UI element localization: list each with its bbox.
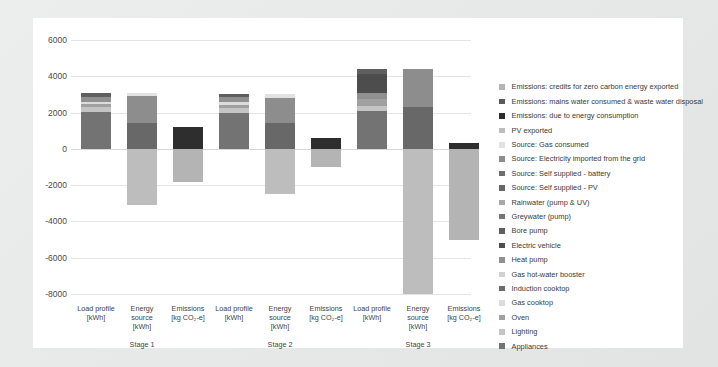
bar-segment (127, 123, 157, 149)
legend-item[interactable]: Bore pump (499, 224, 714, 238)
legend-swatch-icon (499, 343, 505, 349)
legend-item[interactable]: Source: Gas consumed (499, 138, 714, 152)
y-axis-tick-label: -6000 (7, 254, 67, 263)
bar-stage-3-col3[interactable] (449, 40, 479, 294)
legend-item[interactable]: Source: Self supplied - PV (499, 181, 714, 195)
legend-swatch-icon (499, 214, 505, 220)
legend-swatch-icon (499, 128, 505, 134)
bar-segment (81, 93, 111, 97)
legend-label: Source: Gas consumed (512, 141, 589, 148)
grid-line (71, 294, 471, 295)
legend-item[interactable]: Emissions: mains water consumed & waste … (499, 94, 714, 108)
plot-area: 6000400020000-2000-4000-6000-8000Load pr… (71, 40, 471, 294)
bar-segment (265, 98, 295, 123)
legend-item[interactable]: PV exported (499, 123, 714, 137)
bar-segment (173, 149, 203, 182)
legend-swatch-icon (499, 200, 505, 206)
legend-swatch-icon (499, 272, 505, 278)
legend-label: Greywater (pump) (512, 213, 572, 220)
legend-swatch-icon (499, 171, 505, 177)
legend-item[interactable]: Electric vehicle (499, 238, 714, 252)
legend-item[interactable]: Heat pump (499, 253, 714, 267)
legend-item[interactable]: Gas cooktop (499, 296, 714, 310)
bar-segment (81, 102, 111, 104)
legend-swatch-icon (499, 142, 505, 148)
legend-swatch-icon (499, 286, 505, 292)
legend-label: Induction cooktop (512, 285, 570, 292)
legend-swatch-icon (499, 99, 505, 105)
legend-item[interactable]: Emissions: due to energy consumption (499, 109, 714, 123)
bar-stage-2-col2[interactable] (265, 40, 295, 294)
legend-item[interactable]: Induction cooktop (499, 281, 714, 295)
legend-item[interactable]: Greywater (pump) (499, 210, 714, 224)
legend-item[interactable]: Emissions: credits for zero carbon energ… (499, 80, 714, 94)
x-axis-tick-label-line: Emissions (436, 304, 492, 313)
bar-segment (357, 74, 387, 92)
bar-stage-1-col1[interactable] (81, 40, 111, 294)
y-axis-tick-label: -2000 (7, 181, 67, 190)
y-axis-tick-label: 6000 (7, 36, 67, 45)
legend-item[interactable]: Source: Electricity imported from the gr… (499, 152, 714, 166)
bar-stage-2-col3[interactable] (311, 40, 341, 294)
x-axis-tick-label-line: [kWh] (114, 322, 170, 331)
bar-segment (449, 149, 479, 240)
x-axis-tick-label: Emissions[kg CO₂-e] (436, 304, 492, 322)
bar-segment (403, 69, 433, 107)
legend-label: Gas hot-water booster (512, 271, 585, 278)
y-axis-tick-label: 2000 (7, 109, 67, 118)
bar-stage-1-col2[interactable] (127, 40, 157, 294)
legend-swatch-icon (499, 228, 505, 234)
bar-segment (311, 138, 341, 149)
legend-swatch-icon (499, 300, 505, 306)
legend-swatch-icon (499, 113, 505, 119)
bar-segment (311, 149, 341, 167)
legend-swatch-icon (499, 243, 505, 249)
y-axis-tick-label: 0 (7, 145, 67, 154)
legend-label: Source: Self supplied - PV (512, 184, 598, 191)
legend-swatch-icon (499, 156, 505, 162)
bar-segment (357, 106, 387, 111)
legend-swatch-icon (499, 329, 505, 335)
legend-item[interactable]: Oven (499, 310, 714, 324)
bar-segment (219, 108, 249, 113)
bar-segment (219, 113, 249, 149)
bar-segment (265, 94, 295, 98)
x-axis-tick-label-line: [kWh] (252, 322, 308, 331)
bar-stage-1-col3[interactable] (173, 40, 203, 294)
bar-stage-2-col1[interactable] (219, 40, 249, 294)
bar-segment (357, 111, 387, 149)
legend-swatch-icon (499, 257, 505, 263)
bar-segment (265, 123, 295, 148)
legend-label: Emissions: mains water consumed & waste … (512, 98, 703, 105)
legend-label: Oven (512, 314, 530, 321)
bar-segment (127, 96, 157, 122)
bar-stage-3-col1[interactable] (357, 40, 387, 294)
x-axis-group-label: Stage 3 (358, 340, 478, 349)
bar-segment (127, 149, 157, 205)
legend-item[interactable]: Lighting (499, 325, 714, 339)
legend-label: Rainwater (pump & UV) (512, 199, 590, 206)
bar-segment (357, 93, 387, 99)
y-axis-tick-label: -8000 (7, 290, 67, 299)
x-axis-tick-label-line: [kg CO₂-e] (436, 313, 492, 322)
bar-segment (219, 105, 249, 108)
chart-panel: 6000400020000-2000-4000-6000-8000Load pr… (33, 18, 683, 348)
legend-item[interactable]: Appliances (499, 339, 714, 353)
bar-segment (127, 93, 157, 97)
legend-item[interactable]: Gas hot-water booster (499, 267, 714, 281)
legend-item[interactable]: Source: Self supplied - battery (499, 166, 714, 180)
legend-swatch-icon (499, 185, 505, 191)
legend-label: Emissions: credits for zero carbon energ… (512, 83, 679, 90)
bar-stage-3-col2[interactable] (403, 40, 433, 294)
x-axis-group-label: Stage 1 (82, 340, 202, 349)
legend-item[interactable]: Rainwater (pump & UV) (499, 195, 714, 209)
legend-label: Gas cooktop (512, 299, 554, 306)
x-axis-group-label: Stage 2 (220, 340, 340, 349)
legend-label: Bore pump (512, 227, 548, 234)
legend-label: Electric vehicle (512, 242, 561, 249)
bar-segment (81, 112, 111, 149)
bar-segment (265, 149, 295, 194)
bar-segment (403, 149, 433, 294)
bar-segment (81, 104, 111, 107)
legend-label: Lighting (512, 328, 538, 335)
